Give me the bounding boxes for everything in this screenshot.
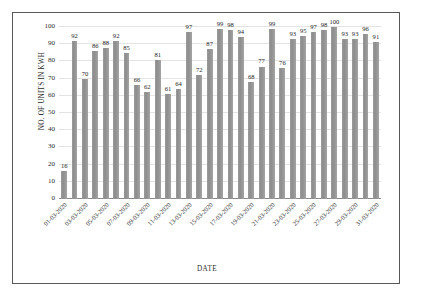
bar[interactable] xyxy=(259,67,265,199)
bar-slot: 99 xyxy=(267,27,277,199)
bar-value-label: 68 xyxy=(248,74,255,81)
bar[interactable] xyxy=(103,48,109,199)
bar-value-label: 87 xyxy=(206,41,213,48)
bar-slot: 95 xyxy=(298,27,308,199)
bar-value-label: 91 xyxy=(373,34,380,41)
chart-screenshot: NO. OF UNITS IN KWH 01020304050607080901… xyxy=(0,0,425,299)
bar-value-label: 86 xyxy=(92,43,99,50)
bar[interactable] xyxy=(228,30,234,199)
bar-slot: 62 xyxy=(142,27,152,199)
bar[interactable] xyxy=(279,68,285,199)
bar-slot: 66 xyxy=(132,27,142,199)
y-axis-tick-label: 10 xyxy=(48,177,55,185)
bar[interactable] xyxy=(207,49,213,199)
bar[interactable] xyxy=(82,79,88,199)
bar-slot: 93 xyxy=(288,27,298,199)
bar[interactable] xyxy=(290,39,296,199)
bar-value-label: 99 xyxy=(269,21,276,28)
bar-slot: 98 xyxy=(319,27,329,199)
bar-slot: 72 xyxy=(194,27,204,199)
bar[interactable] xyxy=(269,29,275,199)
y-axis-title: NO. OF UNITS IN KWH xyxy=(38,16,46,166)
bar-value-label: 94 xyxy=(238,29,245,36)
bar-value-label: 77 xyxy=(258,58,265,65)
bar-value-label: 62 xyxy=(144,84,151,91)
bar-slot: 87 xyxy=(204,27,214,199)
y-axis-tick-label: 30 xyxy=(48,142,55,150)
bar-slot: 16 xyxy=(59,27,69,199)
bar-value-label: 92 xyxy=(113,33,120,40)
bar[interactable] xyxy=(217,29,223,199)
bar-slot: 64 xyxy=(173,27,183,199)
chart-frame: NO. OF UNITS IN KWH 01020304050607080901… xyxy=(12,12,400,284)
y-axis-tick-label: 40 xyxy=(48,125,55,133)
bar-slot: 91 xyxy=(371,27,381,199)
bar-slot: 68 xyxy=(246,27,256,199)
bar-slot: 86 xyxy=(90,27,100,199)
bar[interactable] xyxy=(72,41,78,199)
bar-slot: 61 xyxy=(163,27,173,199)
bar[interactable] xyxy=(61,171,67,199)
bar-value-label: 93 xyxy=(352,31,359,38)
bar[interactable] xyxy=(300,36,306,199)
x-axis-tick-labels: 01-03-202003-03-202005-03-202007-03-2020… xyxy=(59,201,381,263)
y-axis-tick-label: 90 xyxy=(48,39,55,47)
bar-value-label: 99 xyxy=(217,21,224,28)
bar-slot: 81 xyxy=(153,27,163,199)
bar[interactable] xyxy=(331,27,337,199)
bar-value-label: 85 xyxy=(123,45,130,52)
y-axis-tick-label: 80 xyxy=(48,56,55,64)
bar-slot: 98 xyxy=(225,27,235,199)
bar-value-label: 100 xyxy=(329,19,339,26)
bar-value-label: 98 xyxy=(321,22,328,29)
bar-value-label: 97 xyxy=(310,24,317,31)
y-axis-tick-label: 50 xyxy=(48,108,55,116)
bar-slot: 93 xyxy=(350,27,360,199)
bar-series: 1692708688928566628161649772879998946877… xyxy=(59,27,381,199)
bar-value-label: 95 xyxy=(300,28,307,35)
bar[interactable] xyxy=(363,34,369,199)
bar-value-label: 76 xyxy=(279,60,286,67)
bar[interactable] xyxy=(124,53,130,199)
plot-wrapper: NO. OF UNITS IN KWH 01020304050607080901… xyxy=(13,13,401,285)
bar-value-label: 61 xyxy=(165,86,172,93)
bar-slot: 96 xyxy=(360,27,370,199)
bar-value-label: 66 xyxy=(134,77,141,84)
bar[interactable] xyxy=(248,82,254,199)
bar-slot: 76 xyxy=(277,27,287,199)
bar[interactable] xyxy=(311,32,317,199)
y-axis-tick-label: 60 xyxy=(48,91,55,99)
bar-slot: 88 xyxy=(101,27,111,199)
bar-value-label: 88 xyxy=(102,40,109,47)
bar-slot: 92 xyxy=(69,27,79,199)
bar[interactable] xyxy=(321,30,327,199)
bar-value-label: 92 xyxy=(71,33,78,40)
bar-slot: 99 xyxy=(215,27,225,199)
bar[interactable] xyxy=(373,42,379,199)
y-axis-tick-label: 20 xyxy=(48,160,55,168)
bar-value-label: 81 xyxy=(154,52,161,59)
bar-slot: 97 xyxy=(308,27,318,199)
bar[interactable] xyxy=(144,92,150,199)
bar[interactable] xyxy=(113,41,119,199)
bar-value-label: 93 xyxy=(341,31,348,38)
bar[interactable] xyxy=(176,89,182,199)
bar[interactable] xyxy=(352,39,358,199)
bar[interactable] xyxy=(155,60,161,199)
bar-value-label: 98 xyxy=(227,22,234,29)
bar[interactable] xyxy=(92,51,98,199)
bar[interactable] xyxy=(165,94,171,199)
bar-value-label: 97 xyxy=(186,24,193,31)
bar-slot: 85 xyxy=(121,27,131,199)
bar-value-label: 70 xyxy=(82,71,89,78)
bar[interactable] xyxy=(196,75,202,199)
bar-value-label: 16 xyxy=(61,163,68,170)
bar[interactable] xyxy=(238,37,244,199)
bar-slot: 77 xyxy=(256,27,266,199)
bar-value-label: 96 xyxy=(362,26,369,33)
bar-value-label: 93 xyxy=(289,31,296,38)
bar[interactable] xyxy=(342,39,348,199)
bar[interactable] xyxy=(134,85,140,199)
bar-value-label: 72 xyxy=(196,67,203,74)
bar[interactable] xyxy=(186,32,192,199)
